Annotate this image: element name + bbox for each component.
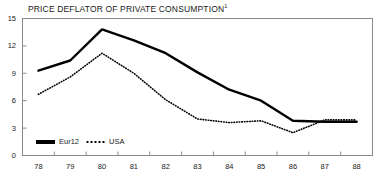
x-tick-label: 86 xyxy=(283,162,303,171)
solid-line-swatch-icon xyxy=(36,140,55,144)
x-tick-label: 80 xyxy=(92,162,112,171)
y-tick-label: 12 xyxy=(2,41,16,50)
y-tick-label: 0 xyxy=(2,151,16,160)
legend-label-usa: USA xyxy=(109,137,124,146)
legend-label-eur12: Eur12 xyxy=(59,137,79,146)
x-tick-label: 81 xyxy=(124,162,144,171)
chart-legend: Eur12 USA xyxy=(36,137,124,146)
plot-frame xyxy=(23,19,373,156)
x-tick-label: 88 xyxy=(347,162,367,171)
x-tick-label: 87 xyxy=(315,162,335,171)
chart-plot-area xyxy=(0,0,386,182)
chart-figure: PRICE DEFLATOR OF PRIVATE CONSUMPTION1 0… xyxy=(0,0,386,182)
x-tick-label: 83 xyxy=(188,162,208,171)
x-tick-label: 82 xyxy=(156,162,176,171)
x-tick-label: 78 xyxy=(28,162,48,171)
y-tick-label: 9 xyxy=(2,69,16,78)
legend-item-eur12: Eur12 xyxy=(36,137,79,146)
plot-frame-border xyxy=(23,19,373,156)
y-tick-label: 3 xyxy=(2,124,16,133)
x-tick-label: 84 xyxy=(219,162,239,171)
legend-item-usa: USA xyxy=(86,137,124,146)
dotted-line-swatch-icon xyxy=(86,140,105,144)
y-tick-label: 15 xyxy=(2,14,16,23)
y-tick-label: 6 xyxy=(2,96,16,105)
x-tick-label: 79 xyxy=(60,162,80,171)
x-tick-label: 85 xyxy=(251,162,271,171)
